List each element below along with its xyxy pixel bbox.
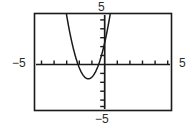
- graph-figure: 5 −5 −5 5: [0, 0, 194, 130]
- coordinate-plane: [0, 0, 194, 130]
- axis-label-right: 5: [179, 57, 186, 69]
- axis-label-left: −5: [12, 57, 26, 69]
- axis-label-top: 5: [98, 1, 105, 13]
- viewing-window-frame: [35, 14, 172, 111]
- axis-label-bottom: −5: [95, 113, 109, 125]
